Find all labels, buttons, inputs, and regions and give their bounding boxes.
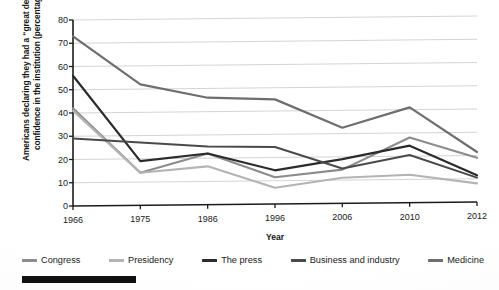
legend-item-congress[interactable]: Congress — [22, 255, 80, 265]
y-tick-label: 0 — [63, 201, 68, 211]
y-tick-label: 60 — [58, 62, 68, 72]
series-line-the-press — [73, 76, 477, 175]
y-tick-label: 10 — [58, 178, 68, 188]
y-tick-label: 40 — [58, 108, 68, 118]
y-tick-label: 70 — [58, 38, 68, 48]
y-tick-label: 30 — [58, 131, 68, 141]
tick-marks — [69, 20, 477, 210]
legend-item-medicine[interactable]: Medicine — [428, 255, 484, 265]
chart-legend: CongressPresidencyThe pressBusiness and … — [22, 251, 484, 269]
legend-label: Medicine — [447, 255, 484, 265]
legend-item-presidency[interactable]: Presidency — [109, 255, 173, 265]
y-tick-label: 50 — [58, 85, 68, 95]
legend-swatch-icon — [202, 259, 217, 262]
x-tick-label: 1986 — [198, 214, 218, 224]
y-tick-label: 80 — [58, 15, 68, 25]
legend-label: The press — [221, 255, 262, 265]
legend-swatch-icon — [291, 259, 306, 262]
x-tick-label: 2006 — [332, 212, 352, 222]
series-line-business-and-industry — [73, 139, 477, 178]
gridline — [73, 132, 477, 136]
gridline — [73, 86, 477, 90]
line-chart-figure: Americans declaring they had a “great de… — [0, 0, 499, 290]
y-axis-title: Americans declaring they had a “great de… — [9, 0, 55, 164]
x-axis-title: Year — [73, 232, 477, 242]
x-tick-label: 2012 — [467, 211, 487, 221]
legend-label: Congress — [41, 255, 80, 265]
gridline — [73, 39, 477, 43]
legend-label: Business and industry — [310, 255, 400, 265]
legend-swatch-icon — [109, 259, 124, 262]
gridline — [73, 179, 477, 183]
redaction-bar — [22, 276, 136, 283]
x-tick-label: 1966 — [63, 215, 83, 225]
legend-swatch-icon — [428, 259, 443, 262]
x-tick-label: 2010 — [400, 212, 420, 222]
gridline — [73, 16, 477, 20]
x-tick-label: 1975 — [130, 214, 150, 224]
legend-item-business-and-industry[interactable]: Business and industry — [291, 255, 400, 265]
legend-swatch-icon — [22, 259, 37, 262]
plot-svg — [73, 20, 477, 206]
legend-label: Presidency — [128, 255, 173, 265]
legend-item-the-press[interactable]: The press — [202, 255, 262, 265]
plot-area: 01020304050607080 1966197519861996200620… — [73, 20, 477, 206]
series-line-medicine — [73, 36, 477, 152]
x-tick-label: 1996 — [265, 213, 285, 223]
gridline — [73, 63, 477, 67]
y-tick-label: 20 — [58, 155, 68, 165]
